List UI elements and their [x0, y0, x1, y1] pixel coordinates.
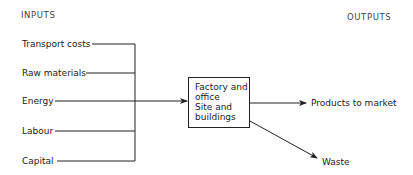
process-line-1: Factory and [195, 82, 248, 92]
process-box-factory: Factory and office Site and buildings [188, 77, 250, 128]
output-label-products-to-market: Products to market [311, 98, 397, 108]
inputs-header: INPUTS [21, 10, 55, 20]
output-label-waste: Waste [322, 157, 350, 167]
outputs-header: OUTPUTS [347, 12, 391, 22]
process-box-text: Factory and office Site and buildings [195, 82, 248, 122]
output-arrow-waste [250, 121, 317, 158]
process-line-2: office [195, 92, 248, 102]
input-label-energy: Energy [22, 96, 54, 106]
process-line-4: buildings [195, 112, 248, 122]
input-label-raw-materials: Raw materials [22, 68, 86, 78]
input-label-labour: Labour [22, 126, 53, 136]
input-label-capital: Capital [22, 156, 54, 166]
process-line-3: Site and [195, 102, 248, 112]
input-label-transport-costs: Transport costs [22, 39, 90, 49]
input-output-diagram: INPUTS OUTPUTS Transport costs Raw mater… [0, 0, 413, 175]
